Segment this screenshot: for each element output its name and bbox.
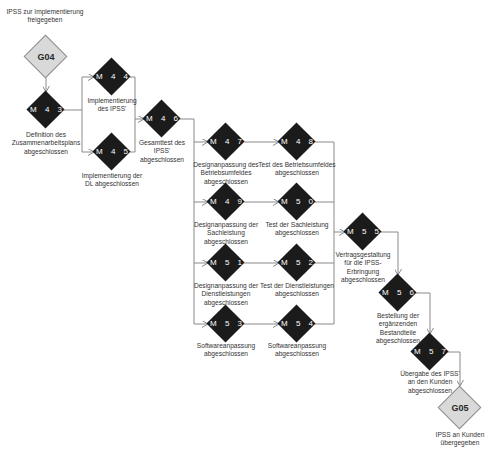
milestone-code: M 5 0 <box>278 183 316 221</box>
milestone-m53[interactable]: M 5 3 <box>207 305 245 343</box>
milestone-code: M 5 2 <box>278 244 316 282</box>
milestone-m51[interactable]: M 5 1 <box>207 244 245 282</box>
milestone-code: M 4 4 <box>93 58 131 96</box>
milestone-m52[interactable]: M 5 2 <box>278 244 316 282</box>
milestone-code: M 5 7 <box>411 333 449 371</box>
milestone-code: M 4 9 <box>207 183 245 221</box>
milestone-m54[interactable]: M 5 4 <box>278 305 316 343</box>
milestone-m56[interactable]: M 5 6 <box>379 274 417 312</box>
milestone-code: M 5 6 <box>379 274 417 312</box>
gate-g04[interactable]: G04 <box>24 35 68 79</box>
milestone-m55[interactable]: M 5 5 <box>344 213 382 251</box>
milestone-m50-label: Test der Sachleistung abgeschlossen <box>252 221 342 238</box>
milestone-code: M 5 4 <box>278 305 316 343</box>
milestone-m45-label: Implementierung der DL abgeschlossen <box>67 172 157 189</box>
milestone-code: M 4 6 <box>143 100 181 138</box>
milestone-m54-label: Softwareanpassung abgeschlossen <box>252 342 342 359</box>
milestone-m57[interactable]: M 5 7 <box>411 333 449 371</box>
milestone-m44[interactable]: M 4 4 <box>93 58 131 96</box>
milestone-m49[interactable]: M 4 9 <box>207 183 245 221</box>
milestone-m46[interactable]: M 4 6 <box>143 100 181 138</box>
milestone-code: M 5 3 <box>207 305 245 343</box>
gate-g05-label: IPSS an Kunden übergegeben <box>415 431 498 448</box>
gate-code: G05 <box>438 386 482 430</box>
milestone-code: M 4 3 <box>27 91 65 129</box>
milestone-code: M 4 7 <box>207 123 245 161</box>
milestone-m48[interactable]: M 4 8 <box>278 123 316 161</box>
milestone-m47[interactable]: M 4 7 <box>207 123 245 161</box>
milestone-code: M 5 1 <box>207 244 245 282</box>
milestone-m48-label: Test des Betriebsumfeldes abgeschlossen <box>252 161 342 178</box>
milestone-diagram: IPSS zur Implementierung freigegeben G04… <box>0 0 498 457</box>
milestone-m43[interactable]: M 4 3 <box>27 91 65 129</box>
milestone-m50[interactable]: M 5 0 <box>278 183 316 221</box>
gate-g04-label: IPSS zur Implementierung freigegeben <box>0 8 90 25</box>
milestone-m43-label: Definition des Zusammenarbeitsplans abge… <box>1 131 91 156</box>
gate-g05[interactable]: G05 <box>438 386 482 430</box>
gate-code: G04 <box>24 35 68 79</box>
milestone-code: M 4 8 <box>278 123 316 161</box>
milestone-code: M 5 5 <box>344 213 382 251</box>
